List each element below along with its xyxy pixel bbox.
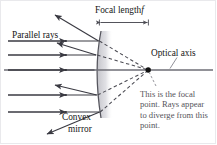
convex-mirror-diagram: Focal lengthf Parallel rays Optical axis… — [0, 0, 217, 145]
focal-point-caption: This is the focal point. Rays appear to … — [140, 89, 210, 131]
parallel-rays-label: Parallel rays — [12, 30, 58, 40]
convex-mirror-label-line1: Convex — [62, 112, 91, 122]
focal-point-leader — [150, 73, 157, 86]
focal-length-label: Focal lengthf — [95, 5, 144, 15]
focal-length-text: Focal length — [95, 5, 141, 15]
reflected-ray — [55, 15, 99, 41]
reflected-ray — [57, 43, 96, 55]
focal-point-dot — [146, 67, 151, 72]
focal-length-symbol: f — [141, 5, 144, 15]
reflected-ray — [55, 85, 97, 95]
ray-marker-dot — [65, 40, 67, 42]
ray-marker-dot — [65, 94, 67, 96]
convex-mirror-label-line2: mirror — [68, 124, 92, 134]
optical-axis-leader — [170, 58, 177, 69]
optical-axis-label: Optical axis — [151, 48, 196, 58]
ray-marker-dot — [65, 69, 67, 71]
ray-marker-dot — [65, 54, 67, 56]
